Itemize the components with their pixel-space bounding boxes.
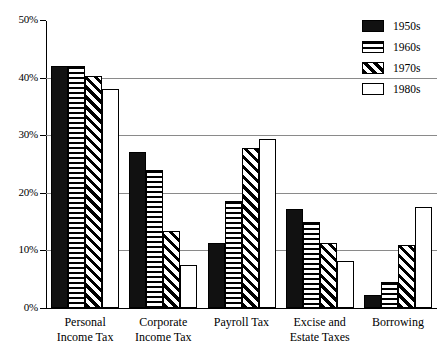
bar bbox=[180, 265, 197, 308]
bar bbox=[337, 261, 354, 308]
legend-item: 1970s bbox=[362, 59, 440, 77]
chart-legend: 1950s1960s1970s1980s bbox=[362, 17, 440, 101]
bar bbox=[242, 148, 259, 308]
y-axis-tick-label: 40% bbox=[0, 72, 38, 83]
legend-item-label: 1970s bbox=[393, 62, 420, 74]
legend-item-label: 1950s bbox=[393, 20, 420, 32]
bar bbox=[364, 295, 381, 308]
bar-group bbox=[286, 20, 354, 308]
bar bbox=[398, 245, 415, 308]
x-axis-label: Payroll Tax bbox=[196, 315, 286, 330]
bar bbox=[381, 282, 398, 308]
legend-item: 1980s bbox=[362, 80, 440, 98]
legend-swatch-icon bbox=[362, 41, 384, 53]
bar bbox=[68, 66, 85, 308]
x-axis-label: Borrowing bbox=[353, 315, 443, 330]
bar bbox=[320, 243, 337, 308]
bar bbox=[85, 76, 102, 308]
y-axis-tick-label: 10% bbox=[0, 244, 38, 255]
bar bbox=[51, 66, 68, 308]
legend-item-label: 1980s bbox=[393, 83, 420, 95]
bar-group bbox=[208, 20, 276, 308]
bar-chart: 0%10%20%30%40%50% PersonalIncome TaxCorp… bbox=[0, 0, 444, 355]
bar bbox=[415, 207, 432, 308]
x-axis-label: CorporateIncome Tax bbox=[118, 315, 208, 345]
bar-group bbox=[51, 20, 119, 308]
gridline bbox=[46, 308, 437, 309]
bar bbox=[129, 152, 146, 308]
bar bbox=[303, 222, 320, 308]
bar bbox=[146, 170, 163, 308]
legend-item-label: 1960s bbox=[393, 41, 420, 53]
bar bbox=[102, 89, 119, 308]
bar bbox=[225, 201, 242, 308]
bar bbox=[286, 209, 303, 308]
bar bbox=[259, 139, 276, 308]
bar bbox=[208, 243, 225, 308]
y-axis-tick-label: 0% bbox=[0, 302, 38, 313]
y-axis-tick-label: 30% bbox=[0, 129, 38, 140]
legend-item: 1950s bbox=[362, 17, 440, 35]
legend-item: 1960s bbox=[362, 38, 440, 56]
legend-swatch-icon bbox=[362, 83, 384, 95]
bar bbox=[163, 231, 180, 308]
bar-group bbox=[129, 20, 197, 308]
y-axis-tick-label: 20% bbox=[0, 187, 38, 198]
x-axis-label: PersonalIncome Tax bbox=[40, 315, 130, 345]
legend-swatch-icon bbox=[362, 20, 384, 32]
legend-swatch-icon bbox=[362, 62, 384, 74]
y-axis-tick-label: 50% bbox=[0, 14, 38, 25]
x-axis-label: Excise andEstate Taxes bbox=[275, 315, 365, 345]
